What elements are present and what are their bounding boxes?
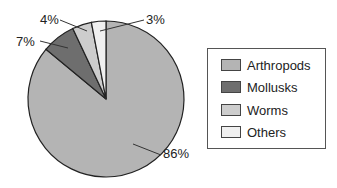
- legend-label: Mollusks: [247, 80, 298, 95]
- legend-swatch-worms: [221, 104, 241, 116]
- percentage-label: 3%: [146, 12, 165, 27]
- legend-swatch-others: [221, 126, 241, 138]
- legend-label: Others: [247, 125, 286, 140]
- percentage-label: 86%: [163, 146, 189, 161]
- legend: Arthropods Mollusks Worms Others: [207, 48, 326, 149]
- legend-item-mollusks: Mollusks: [221, 80, 298, 94]
- legend-item-worms: Worms: [221, 103, 288, 117]
- percentage-label: 4%: [40, 12, 59, 27]
- legend-swatch-arthropods: [221, 59, 241, 71]
- percentage-label: 7%: [16, 34, 35, 49]
- pie-slices: [28, 21, 184, 177]
- legend-item-arthropods: Arthropods: [221, 58, 311, 72]
- legend-label: Arthropods: [247, 58, 311, 73]
- legend-label: Worms: [247, 103, 288, 118]
- legend-swatch-mollusks: [221, 81, 241, 93]
- legend-item-others: Others: [221, 125, 286, 139]
